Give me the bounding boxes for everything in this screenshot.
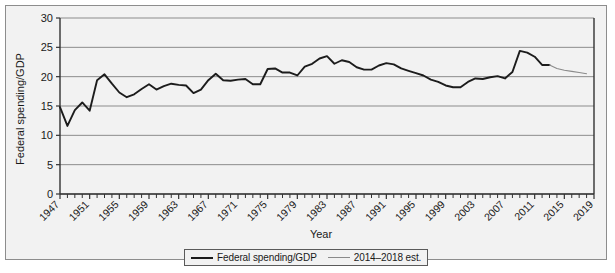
y-tick-label-10: 10 [41,129,53,141]
y-tick-label-5: 5 [47,159,53,171]
legend-item-estimate: 2014–2018 est. [328,252,422,263]
legend-swatch-estimate-line [328,257,350,258]
y-axis-title: Federal spending/GDP [14,53,26,165]
y-tick-label-20: 20 [41,71,53,83]
legend-label-estimate: 2014–2018 est. [354,252,422,263]
line-chart-canvas: 051015202530 194719511955195919631967197… [6,6,606,259]
y-tick-label-15: 15 [41,100,53,112]
plot-background [6,6,606,259]
y-tick-label-25: 25 [41,41,53,53]
chart-frame: 051015202530 194719511955195919631967197… [5,5,607,260]
figure-container: 051015202530 194719511955195919631967197… [0,0,615,273]
legend-item-federal-spending: Federal spending/GDP [191,252,317,263]
legend-label-federal-spending: Federal spending/GDP [217,252,317,263]
chart-legend: Federal spending/GDP 2014–2018 est. [184,249,428,266]
x-axis-title: Year [310,228,333,240]
legend-swatch-main-line [191,257,213,259]
y-tick-label-30: 30 [41,12,53,24]
